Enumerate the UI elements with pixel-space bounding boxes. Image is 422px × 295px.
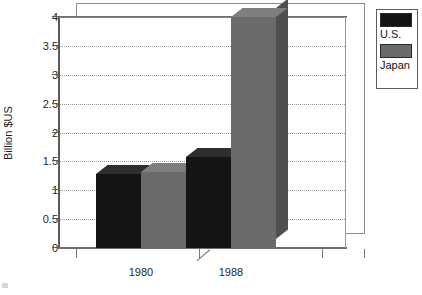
x-axis-tick-mark	[322, 249, 323, 258]
bar-side-face	[276, 0, 288, 239]
bar-front-face	[96, 174, 141, 248]
y-axis-tick-mark	[52, 189, 59, 190]
y-axis-tick: 1.5	[0, 156, 58, 166]
y-axis-tick-label: 2	[12, 128, 58, 138]
y-axis-tick-label: 2.5	[12, 99, 58, 109]
x-axis-tick-mark	[364, 249, 365, 258]
y-axis-tick: 2	[0, 128, 58, 138]
y-axis-tick-label: 3	[12, 70, 58, 80]
y-axis-tick-mark	[52, 103, 59, 104]
y-axis-title: Billion $US	[4, 16, 16, 96]
x-axis-tick-mark	[76, 249, 77, 258]
legend-swatch-japan	[380, 44, 412, 58]
y-axis-tick-label: 0.5	[12, 214, 58, 224]
gridline	[60, 75, 345, 76]
bar-front-face	[141, 172, 186, 248]
scan-artifact	[2, 283, 8, 288]
y-axis-tick-label: 1.5	[12, 156, 58, 166]
y-axis-tick-mark	[52, 16, 59, 17]
y-axis-tick: 0.5	[0, 214, 58, 224]
plot-back-top-edge	[76, 3, 365, 4]
gridline	[60, 133, 345, 134]
bar-us-1988	[186, 157, 231, 248]
y-axis-tick: 4	[0, 12, 58, 22]
bar-japan-1988	[231, 17, 276, 248]
plot-back-right-edge	[364, 3, 365, 234]
y-axis-tick-mark	[52, 160, 59, 161]
plot-right-edge	[345, 17, 346, 248]
y-axis-tick-mark	[52, 45, 59, 46]
gridline	[60, 17, 345, 18]
y-axis-tick-mark	[52, 218, 59, 219]
legend-label-japan: Japan	[380, 59, 415, 72]
y-axis-tick: 0	[0, 243, 58, 253]
gridline	[60, 46, 345, 47]
bar-us-1980	[96, 174, 141, 248]
y-axis-tick: 2.5	[0, 99, 58, 109]
y-axis-tick: 1	[0, 185, 58, 195]
y-axis-tick-label: 4	[12, 12, 58, 22]
bar-japan-1980	[141, 172, 186, 248]
legend: U.S. Japan	[376, 9, 418, 89]
y-axis-tick-label: 1	[12, 185, 58, 195]
y-axis-tick: 3	[0, 70, 58, 80]
bar-front-face	[186, 157, 231, 248]
x-axis-label-1988: 1988	[174, 266, 288, 278]
bar-front-face	[231, 17, 276, 248]
y-axis-tick-mark	[52, 132, 59, 133]
y-axis-tick-mark	[52, 247, 59, 248]
y-axis-tick: 3.5	[0, 41, 58, 51]
y-axis-tick-mark	[52, 74, 59, 75]
gridline	[60, 104, 345, 105]
bar-chart: Billion $US 43.532.521.510.50 19801988 ╱…	[0, 0, 422, 295]
legend-swatch-us	[380, 13, 412, 27]
y-axis-tick-label: 3.5	[12, 41, 58, 51]
legend-label-us: U.S.	[380, 28, 415, 41]
y-axis-tick-label: 0	[12, 243, 58, 253]
